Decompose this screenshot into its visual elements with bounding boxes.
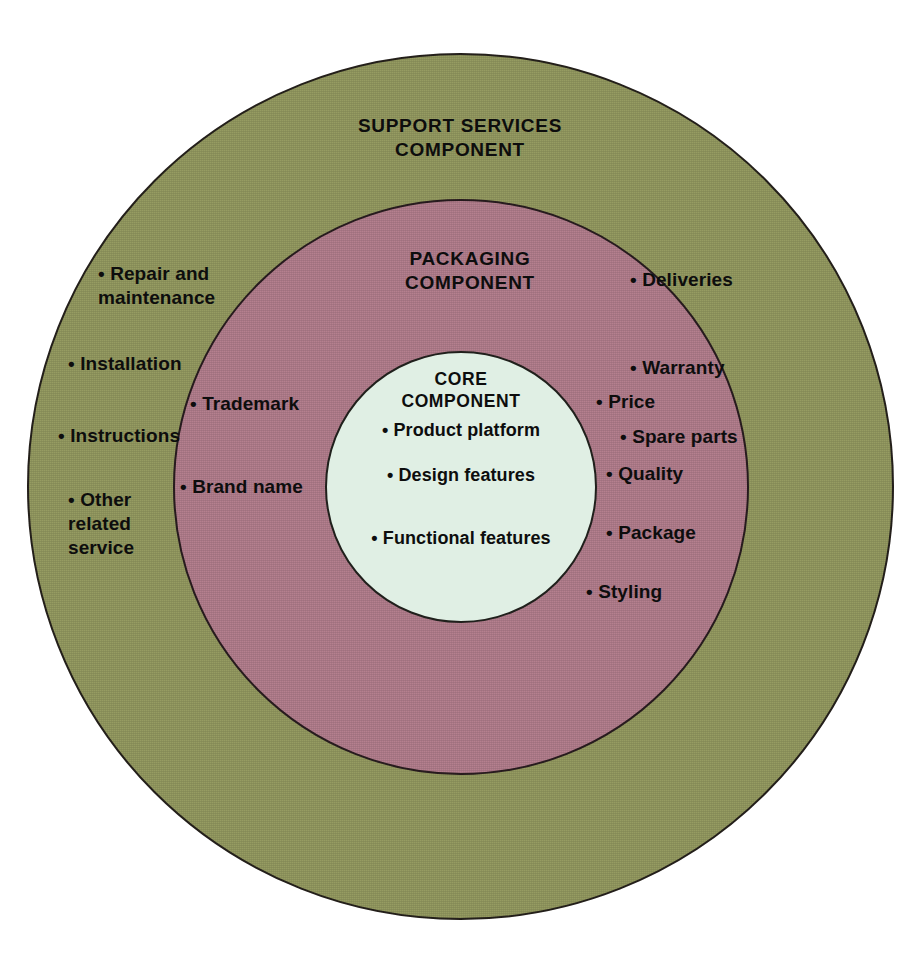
core-item-design-features: • Design features — [351, 464, 571, 487]
support-item-installation: • Installation — [68, 352, 263, 376]
packaging-item-trademark: • Trademark — [190, 392, 370, 416]
packaging-item-brand-name: • Brand name — [180, 475, 370, 499]
packaging-heading: PACKAGING COMPONENT — [330, 247, 610, 295]
packaging-item-styling: • Styling — [586, 580, 756, 604]
support-item-spare-parts: • Spare parts — [620, 425, 860, 449]
support-item-deliveries: • Deliveries — [630, 268, 860, 292]
packaging-item-quality: • Quality — [606, 462, 776, 486]
packaging-item-package: • Package — [606, 521, 776, 545]
support-item-repair-and-maintenance: • Repair and maintenance — [98, 262, 293, 310]
support-services-heading: SUPPORT SERVICES COMPONENT — [300, 114, 620, 162]
core-item-functional-features: • Functional features — [341, 527, 581, 550]
support-item-warranty: • Warranty — [630, 356, 860, 380]
packaging-item-price: • Price — [596, 390, 766, 414]
core-item-product-platform: • Product platform — [351, 419, 571, 442]
support-item-instructions: • Instructions — [58, 424, 253, 448]
core-heading: CORE COMPONENT — [381, 368, 541, 412]
concentric-circle-diagram: SUPPORT SERVICES COMPONENT • Repair and … — [0, 0, 921, 971]
